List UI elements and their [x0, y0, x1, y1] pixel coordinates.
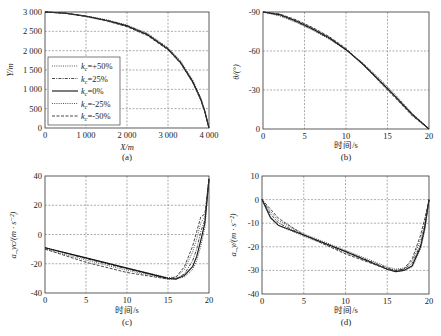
ylabel-d: a_y/(m · s⁻²)	[228, 213, 238, 256]
y-tick-label: -10	[248, 218, 259, 228]
caption-b: (b)	[341, 152, 352, 162]
xlabel-a: X/m	[119, 142, 134, 152]
x-tick-label: 15	[164, 295, 173, 305]
y-tick-label: -90	[249, 7, 260, 17]
x-tick-label: 20	[425, 296, 434, 306]
y-tick-label: 0	[38, 123, 42, 133]
ylabel-a: Y/m	[5, 63, 15, 76]
y-tick-label: 2 000	[23, 46, 42, 56]
y-tick-label: 2 500	[23, 26, 42, 36]
figure-canvas: 01 0002 0003 0004 00005001 0001 5002 000…	[0, 0, 441, 336]
y-tick-label: -20	[31, 259, 42, 269]
x-tick-label: 10	[123, 295, 132, 305]
x-tick-label: 5	[302, 131, 306, 141]
y-tick-label: 20	[34, 200, 43, 210]
x-tick-label: 20	[425, 131, 434, 141]
y-tick-label: 3 000	[23, 7, 42, 17]
legend: kc=+50%kc=25%kc=0%kc=-25%kc=-50%	[48, 57, 120, 125]
y-tick-label: 10	[251, 171, 260, 181]
x-tick-label: 5	[84, 295, 88, 305]
x-tick-label: 0	[43, 130, 47, 140]
ylabel-b: θ/(°)	[231, 64, 241, 80]
xlabel-c: 时间/s	[115, 305, 139, 315]
y-tick-label: -20	[248, 242, 259, 252]
y-tick-label: 0	[38, 230, 42, 240]
subplot-c-ayc: 05101520-40-2002040	[31, 171, 214, 305]
y-tick-label: 0	[255, 195, 259, 205]
x-tick-label: 1 000	[76, 130, 95, 140]
x-tick-label: 3 000	[158, 130, 177, 140]
y-tick-label: 500	[29, 104, 42, 114]
x-tick-label: 4 000	[199, 130, 218, 140]
x-tick-label: 0	[43, 295, 47, 305]
subplot-d-ay: 05101520-40-30-20-10010	[248, 171, 434, 306]
x-tick-label: 20	[205, 295, 214, 305]
xlabel-b: 时间/s	[334, 140, 358, 150]
y-tick-label: 0	[256, 124, 260, 134]
caption-a: (a)	[122, 152, 132, 162]
caption-c: (c)	[122, 317, 132, 327]
series-line	[262, 200, 429, 271]
series-line	[262, 200, 429, 270]
y-tick-label: -30	[248, 265, 259, 275]
caption-d: (d)	[341, 317, 352, 327]
x-tick-label: 15	[383, 296, 392, 306]
y-tick-label: 1 000	[23, 84, 42, 94]
subplot-b-theta: 051015200-30-60-90	[249, 7, 434, 141]
y-tick-label: -40	[31, 288, 42, 298]
legend-label: kc=0%	[81, 86, 104, 97]
xlabel-d: 时间/s	[334, 305, 358, 315]
x-tick-label: 2 000	[117, 130, 136, 140]
y-tick-label: -40	[248, 289, 259, 299]
x-tick-label: 0	[260, 296, 264, 306]
x-tick-label: 5	[302, 296, 306, 306]
y-tick-label: 1 500	[23, 65, 42, 75]
y-tick-label: 40	[34, 171, 43, 181]
x-tick-label: 15	[383, 131, 392, 141]
ylabel-c: a_yc/(m · s⁻²)	[8, 211, 18, 258]
x-tick-label: 0	[261, 131, 265, 141]
y-tick-label: -30	[249, 85, 260, 95]
y-tick-label: -60	[249, 46, 260, 56]
series-line	[262, 200, 429, 271]
